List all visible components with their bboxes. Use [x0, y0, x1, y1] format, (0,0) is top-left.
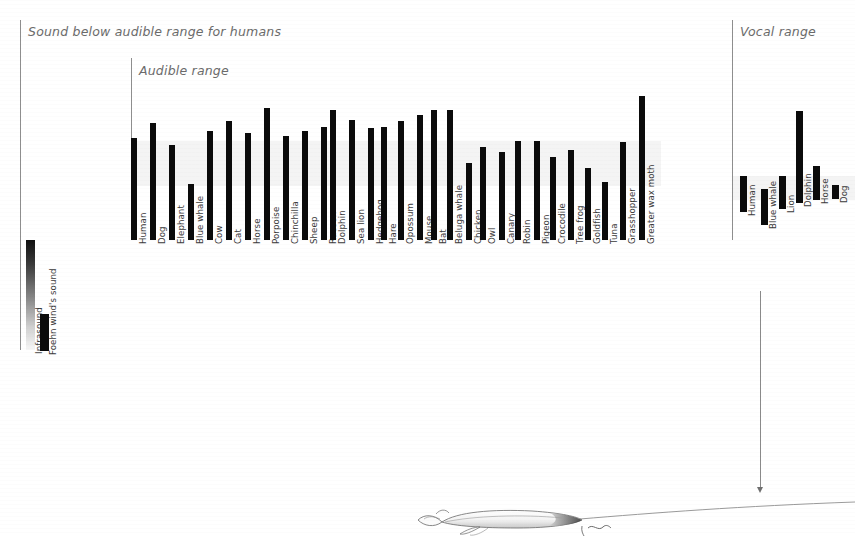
bar-hare [381, 127, 387, 240]
bar-bat [431, 110, 437, 240]
bar-label-horse: Horse [252, 218, 262, 244]
bar-label-dog: Dog [839, 185, 849, 203]
bar-elephant [169, 145, 175, 240]
bar-mouse [417, 115, 423, 240]
bar-label-lion: Lion [786, 195, 796, 213]
bar-label-cow: Cow [214, 225, 224, 244]
bar-human [131, 138, 137, 240]
figure-canvas: Sound below audible range for humans Aud… [0, 0, 855, 536]
bar-lion [779, 176, 786, 209]
blue-whale-leader-line [760, 291, 761, 489]
bar-porpoise [264, 108, 270, 240]
bar-label-blue-whale: Blue whale [195, 196, 205, 244]
bar-horse [813, 166, 820, 200]
bar-label-foehn-wind-s-sound: Foehn wind's sound [48, 268, 58, 355]
bar-label-robin: Robin [522, 219, 532, 244]
bar-label-tree-frog: Tree frog [575, 205, 585, 244]
bar-label-elephant: Elephant [176, 205, 186, 244]
bar-dog [832, 185, 839, 199]
bar-robin [515, 141, 521, 240]
bar-cat [226, 121, 232, 240]
bar-canary [499, 152, 505, 240]
bar-human [740, 176, 747, 212]
infrasound-panel-rule [20, 20, 21, 350]
bar-cow [207, 131, 213, 240]
bar-crocodile [550, 157, 556, 240]
bar-label-horse: Horse [820, 178, 830, 204]
bar-label-crocodile: Crocodile [557, 203, 567, 244]
bar-horse [245, 133, 251, 240]
bar-label-opossum: Opossum [405, 203, 415, 244]
blue-whale-illustration [412, 478, 855, 536]
bar-label-greater-wax-moth: Greater wax moth [646, 164, 656, 244]
bar-label-porpoise: Porpoise [271, 207, 281, 244]
bar-greater-wax-moth [639, 96, 645, 240]
bar-chinchilla [283, 136, 289, 240]
vocal-panel-title: Vocal range [740, 24, 816, 39]
bar-label-sea-lion: Sea lion [356, 209, 366, 244]
bar-label-tuna: Tuna [609, 223, 619, 244]
bar-label-owl: Owl [487, 228, 497, 244]
bar-label-dolphin: Dolphin [803, 173, 813, 207]
bar-owl [480, 147, 486, 240]
bar-label-human: Human [138, 213, 148, 245]
bar-pigeon [534, 141, 540, 240]
bar-opossum [398, 121, 404, 240]
bar-dolphin [330, 110, 336, 240]
bar-dolphin [796, 111, 803, 203]
bar-tree-frog [568, 150, 574, 240]
bar-label-dolphin: Dolphin [337, 210, 347, 244]
bar-dog [150, 123, 156, 240]
bar-label-dog: Dog [157, 226, 167, 244]
bar-blue-whale [188, 184, 194, 240]
bar-grasshopper [620, 142, 626, 240]
bar-sea-lion [349, 120, 355, 240]
bar-label-goldfish: Goldfish [592, 208, 602, 244]
bar-label-hare: Hare [388, 223, 398, 244]
bar-label-grasshopper: Grasshopper [627, 188, 637, 244]
bar-label-blue-whale: Blue whale [768, 181, 778, 229]
bar-sheep [302, 131, 308, 240]
infrasound-panel-title: Sound below audible range for humans [28, 24, 281, 39]
bar-label-cat: Cat [233, 229, 243, 244]
bar-hedgehog [368, 128, 374, 240]
bar-racoon [321, 127, 327, 240]
bar-goldfish [585, 168, 591, 240]
audible-panel-title: Audible range [139, 63, 229, 78]
bar-beluga-whale [447, 110, 453, 240]
bar-label-sheep: Sheep [309, 217, 319, 244]
bar-label-beluga-whale: Beluga whale [454, 185, 464, 244]
bar-chicken [466, 163, 472, 240]
scanline-texture [0, 0, 855, 536]
vocal-panel-rule [732, 20, 733, 240]
bar-tuna [602, 182, 608, 240]
bar-label-human: Human [747, 185, 757, 217]
bar-label-chinchilla: Chinchilla [290, 201, 300, 244]
bar-blue-whale [761, 189, 768, 225]
